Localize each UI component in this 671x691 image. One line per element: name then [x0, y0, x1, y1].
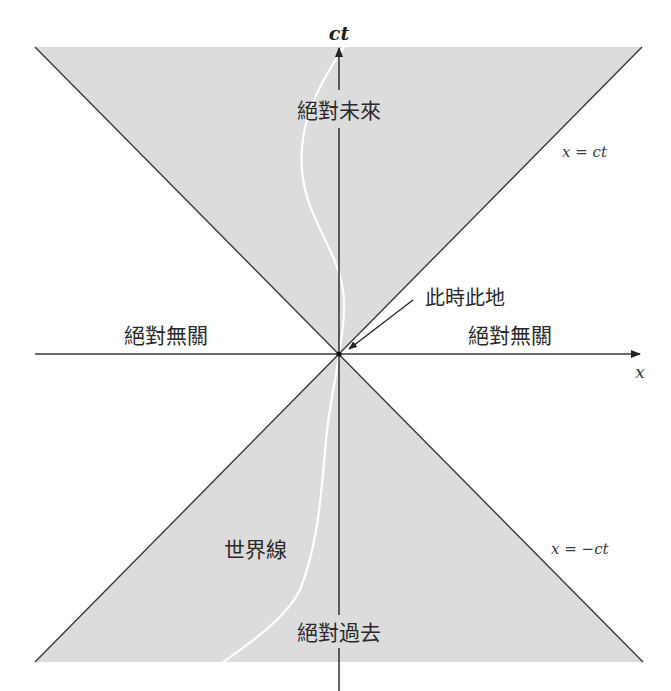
x-equals-ct-label: x = ct — [562, 143, 608, 161]
elsewhere-right-label: 絕對無關 — [468, 324, 552, 348]
absolute-future-label: 絕對未來 — [297, 99, 381, 123]
elsewhere-left-label: 絕對無關 — [124, 324, 208, 348]
absolute-past-label: 絕對過去 — [297, 621, 381, 645]
worldline-label: 世界線 — [224, 538, 287, 562]
x-axis-label: x — [635, 362, 645, 382]
here-and-now-label: 此時此地 — [425, 286, 505, 310]
x-equals-minus-ct-label: x = −ct — [551, 540, 610, 558]
origin-point — [336, 351, 341, 356]
ct-axis-label: ct — [329, 22, 350, 44]
light-cone-diagram: ct x x = ct x = −ct 絕對未來 絕對過去 絕對無關 絕對無關 … — [0, 0, 671, 691]
